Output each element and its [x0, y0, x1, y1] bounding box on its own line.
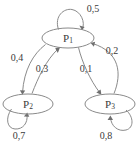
node-p2[interactable]: P2	[3, 94, 53, 114]
edge-label-p3-self: 0,8	[100, 130, 113, 141]
edge-p1-to-p1: 0,5	[57, 3, 99, 30]
node-p2-label: P2	[23, 97, 33, 111]
edge-label-p2-self: 0,7	[13, 130, 26, 141]
edge-label-p1-p2: 0,4	[11, 52, 24, 63]
arrowhead-p3-self	[108, 116, 113, 121]
node-p1-label: P1	[63, 31, 73, 45]
edge-label-p1-self: 0,5	[87, 3, 100, 14]
edge-p3-to-p3: 0,8	[100, 110, 132, 141]
edge-p1-to-p3: 0,1	[79, 48, 102, 95]
edge-label-p1-p3: 0,1	[80, 63, 93, 74]
node-p3[interactable]: P3	[85, 94, 135, 114]
state-diagram-canvas: 0,5 0,4 0,3 0,1 0,2	[0, 0, 137, 145]
node-p3-label: P3	[105, 97, 115, 111]
arrowhead-p1-p3	[96, 90, 101, 95]
markov-chain-diagram: 0,5 0,4 0,3 0,1 0,2	[0, 0, 137, 145]
edge-path-p1-self	[57, 9, 83, 30]
edge-label-p3-p1: 0,2	[106, 45, 119, 56]
arrowhead-p2-self	[24, 113, 29, 117]
edge-path-p2-self	[8, 109, 28, 129]
edge-label-p2-p1: 0,3	[36, 63, 49, 74]
node-p1[interactable]: P1	[42, 28, 94, 48]
